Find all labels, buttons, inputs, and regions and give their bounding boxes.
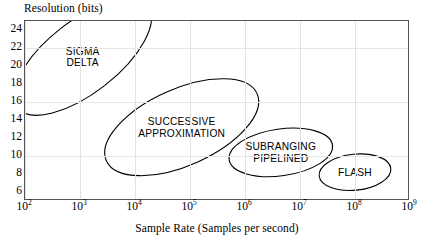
y-tick-label: 14 (0, 113, 22, 125)
gridline-horizontal (25, 48, 408, 49)
region-label-line: DELTA (67, 57, 99, 68)
gridline-horizontal (25, 156, 408, 157)
x-tick-label: 108 (346, 201, 361, 213)
gridline-horizontal (25, 102, 408, 103)
y-tick-label: 6 (0, 185, 22, 197)
adc-architecture-chart: Resolution (bits) 242220181614121086 SIG… (0, 0, 421, 242)
region-label-line: SUCCESSIVE (148, 116, 216, 127)
region-label-line: APPROXIMATION (138, 128, 225, 139)
y-tick-label: 24 (0, 23, 22, 35)
x-tick-label: 103 (71, 201, 86, 213)
x-tick-label: 102 (16, 201, 31, 213)
y-axis-tick-labels: 242220181614121086 (0, 20, 22, 200)
plot-area: SIGMADELTASUCCESSIVEAPPROXIMATIONSUBRANG… (24, 20, 409, 200)
x-tick-label: 104 (126, 201, 141, 213)
y-tick-label: 12 (0, 131, 22, 143)
y-tick-label: 8 (0, 167, 22, 179)
x-tick-label: 107 (291, 201, 306, 213)
y-axis-title: Resolution (bits) (24, 2, 103, 14)
x-axis-title: Sample Rate (Samples per second) (24, 222, 410, 234)
y-tick-label: 22 (0, 41, 22, 53)
x-tick-label: 105 (181, 201, 196, 213)
x-axis-tick-labels: 102103104105106107108109 (24, 201, 410, 219)
y-tick-label: 18 (0, 77, 22, 89)
y-tick-label: 10 (0, 149, 22, 161)
y-tick-label: 20 (0, 59, 22, 71)
y-tick-label: 16 (0, 95, 22, 107)
region-label-line: SUBRANGING (246, 141, 317, 152)
x-tick-label: 109 (401, 201, 416, 213)
x-tick-label: 106 (236, 201, 251, 213)
